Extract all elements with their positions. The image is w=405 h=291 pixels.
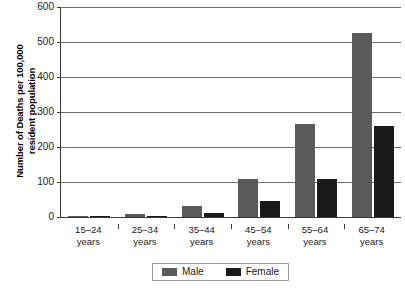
legend-label: Male (182, 267, 204, 277)
bar-female (260, 201, 280, 217)
bar-group (174, 7, 231, 217)
bar-male (238, 179, 258, 217)
bar-group (61, 7, 118, 217)
legend-swatch-icon (162, 268, 177, 276)
x-tick-label: 25–34 years (117, 224, 174, 247)
y-tick-label: 0 (14, 212, 54, 222)
x-tick-label: 15–24 years (60, 224, 117, 247)
y-tick-label: 500 (14, 37, 54, 47)
y-tick-mark (57, 217, 61, 218)
plot-area: 0100200300400500600 (60, 7, 401, 217)
legend-item-female: Female (226, 267, 279, 277)
bar-group (231, 7, 288, 217)
gridline (61, 217, 401, 218)
bar-female (317, 179, 337, 218)
bar-female (147, 216, 167, 217)
x-tick-label: 55–64 years (287, 224, 344, 247)
bar-male (352, 33, 372, 217)
y-tick-label: 600 (14, 2, 54, 12)
y-tick-label: 200 (14, 142, 54, 152)
legend-swatch-icon (226, 268, 241, 276)
bar-female (204, 213, 224, 217)
y-tick-label: 400 (14, 72, 54, 82)
bar-group (118, 7, 175, 217)
bar-group (344, 7, 401, 217)
x-tick-label: 35–44 years (173, 224, 230, 247)
bar-chart: Number of Deaths per 100,000 resident po… (0, 0, 405, 291)
chart-legend: MaleFemale (152, 263, 289, 281)
bar-female (90, 216, 110, 217)
x-tick-label: 65–74 years (343, 224, 400, 247)
x-axis-labels: 15–24 years25–34 years35–44 years45–54 y… (60, 224, 400, 256)
y-tick-label: 100 (14, 177, 54, 187)
bar-male (125, 214, 145, 217)
legend-label: Female (246, 267, 279, 277)
legend-item-male: Male (162, 267, 204, 277)
bar-female (374, 126, 394, 217)
y-tick-label: 300 (14, 107, 54, 117)
bar-male (295, 124, 315, 217)
bar-male (68, 216, 88, 217)
bar-group (288, 7, 345, 217)
bars-layer (61, 7, 401, 217)
bar-male (182, 206, 202, 217)
x-tick-label: 45–54 years (230, 224, 287, 247)
